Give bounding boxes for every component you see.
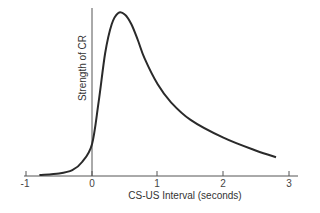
x-tick-label: -1 (21, 178, 30, 189)
x-tick-label: 0 (89, 178, 95, 189)
x-axis-label: CS-US Interval (seconds) (128, 190, 241, 201)
x-tick-label: 1 (154, 178, 160, 189)
cr-strength-curve (39, 12, 276, 175)
x-tick-label: 3 (286, 178, 292, 189)
y-axis-label: Strength of CR (77, 35, 88, 101)
x-tick-label: 2 (220, 178, 226, 189)
